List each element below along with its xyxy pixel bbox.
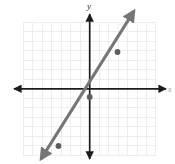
x-axis-label: x xyxy=(168,85,172,94)
coordinate-plane-figure: y x xyxy=(0,0,175,164)
y-axis-label: y xyxy=(87,2,91,11)
point-marker xyxy=(56,143,62,149)
coordinate-plane-svg xyxy=(0,0,175,164)
point-marker xyxy=(115,49,121,55)
point-marker xyxy=(87,94,93,100)
